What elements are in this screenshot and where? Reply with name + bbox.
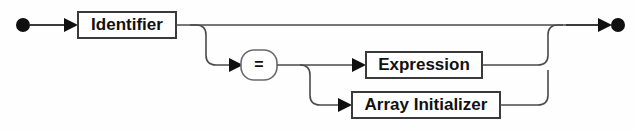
end-terminal-dot [611,18,625,32]
node-expression-label: Expression [378,55,470,74]
node-array-initializer-label: Array Initializer [365,95,488,114]
arrow-into-end-icon [598,18,612,32]
arrow-into-array-initializer-icon [338,98,352,112]
syntax-diagram: Identifier = Expression Array Initialize… [0,0,634,130]
node-equals-label: = [254,56,263,73]
rail-equals-down-to-array-initializer [300,65,344,105]
rail-identifier-down-to-equals [190,25,235,65]
arrow-into-expression-icon [352,58,366,72]
start-terminal-dot [16,18,30,32]
arrow-into-identifier-icon [64,18,78,32]
rail-array-initializer-to-end [500,70,548,105]
node-identifier-label: Identifier [91,15,163,34]
railroad-diagram-canvas: Identifier = Expression Array Initialize… [0,0,634,130]
rail-expression-to-end [482,25,566,65]
